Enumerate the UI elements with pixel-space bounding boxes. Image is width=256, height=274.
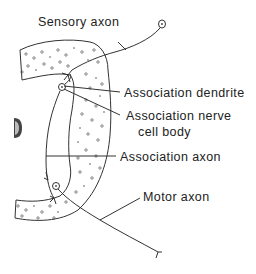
label-association-axon: Association axon [120, 150, 221, 164]
motor-neuron [44, 172, 162, 258]
label-sensory-axon: Sensory axon [38, 15, 119, 29]
sensory-neuron [62, 20, 166, 82]
association-neuron [46, 74, 71, 204]
diagram-canvas: Sensory axon Association dendrite Associ… [0, 0, 256, 274]
leader-lines [46, 42, 140, 220]
label-motor-axon: Motor axon [143, 190, 210, 204]
label-association-nerve-cell-body-line1: Association nerve [126, 109, 231, 123]
label-association-nerve-cell-body-line2: cell body [138, 125, 191, 139]
root-ganglion-shape [14, 118, 22, 138]
reflex-arc-diagram: Sensory axon Association dendrite Associ… [0, 0, 256, 274]
label-association-dendrite: Association dendrite [124, 86, 245, 100]
